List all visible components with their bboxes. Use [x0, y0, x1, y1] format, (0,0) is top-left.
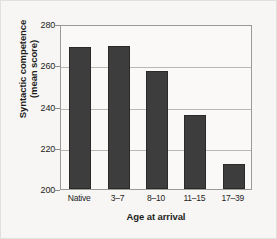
x-tick-label: 17–39 — [214, 193, 252, 203]
bar — [223, 164, 245, 189]
x-tick-label: 3–7 — [98, 193, 136, 203]
bar — [108, 46, 130, 189]
x-axis-title: Age at arrival — [60, 211, 252, 222]
bar — [69, 47, 91, 189]
bar — [146, 71, 168, 189]
y-tick-label: 220 — [21, 144, 55, 154]
x-tick-label: 8–10 — [137, 193, 175, 203]
y-tick-label: 240 — [21, 103, 55, 113]
x-tick-label: 11–15 — [175, 193, 213, 203]
y-tick-label: 260 — [21, 61, 55, 71]
y-tick-label: 280 — [21, 20, 55, 30]
y-tick-mark — [54, 190, 60, 191]
plot-area — [60, 25, 252, 190]
x-tick-label: Native — [60, 193, 98, 203]
y-tick-label: 200 — [21, 185, 55, 195]
bar — [184, 115, 206, 189]
bar-chart-figure: Syntactic competence (mean score) 280260… — [0, 0, 277, 239]
